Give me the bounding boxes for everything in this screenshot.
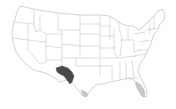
us-map-svg bbox=[0, 0, 176, 109]
us-map bbox=[0, 0, 176, 109]
us-outline bbox=[12, 6, 165, 97]
